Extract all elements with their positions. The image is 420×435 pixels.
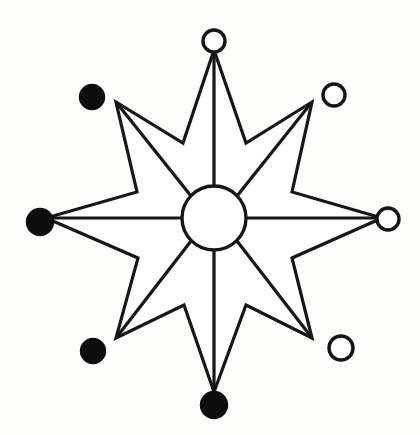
node-south-west-filled[interactable] bbox=[81, 339, 105, 363]
node-north-east-hollow[interactable] bbox=[323, 84, 345, 106]
star-diagram-canvas bbox=[0, 0, 420, 435]
node-east-hollow[interactable] bbox=[377, 208, 399, 230]
central-hub-circle bbox=[182, 186, 246, 250]
node-south-east-hollow[interactable] bbox=[329, 336, 353, 360]
node-north-west-filled[interactable] bbox=[80, 85, 104, 109]
node-west-filled[interactable] bbox=[27, 209, 53, 235]
node-north-hollow[interactable] bbox=[203, 30, 225, 52]
node-south-filled[interactable] bbox=[201, 392, 227, 418]
